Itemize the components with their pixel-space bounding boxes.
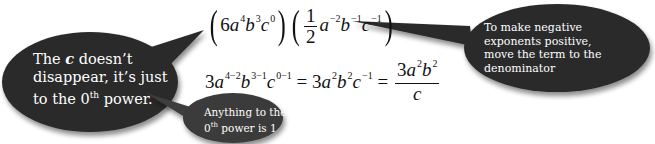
fraction-numerator: 1 xyxy=(304,6,318,27)
right-callout-line-3: move the term to the xyxy=(484,48,601,62)
equation-line-2: 3a4−2b3−1c0−1 = 3a2b2c−1 = 3a2b2c xyxy=(205,62,441,106)
b-exponent: 3 xyxy=(256,13,261,24)
variable-c: c xyxy=(65,50,74,67)
a-exponent: 4 xyxy=(240,13,245,24)
step2: 3a2b2c−1 xyxy=(312,71,373,92)
fraction-half: 12 xyxy=(304,6,318,47)
text: 0 xyxy=(204,122,211,134)
a-exponent: 2 xyxy=(417,58,422,69)
coefficient: 3 xyxy=(397,59,407,80)
right-callout-text: To make negative exponents positive, mov… xyxy=(484,21,601,75)
left-callout-line-1: The c doesn’t xyxy=(33,50,168,68)
right-callout-line-4: denominator xyxy=(484,62,601,76)
a-exponent: 4−2 xyxy=(225,70,241,81)
left-callout-line-3: to the 0th power. xyxy=(33,86,168,108)
superscript: th xyxy=(90,90,99,100)
result-numerator: 3a2b2 xyxy=(395,60,440,84)
fraction-denominator: 2 xyxy=(304,27,318,47)
right-callout-line-2: exponents positive, xyxy=(484,35,601,49)
left-callout-text: The c doesn’t disappear, it’s just to th… xyxy=(33,50,168,108)
left-paren: ( xyxy=(291,5,299,45)
c-exponent: 0−1 xyxy=(276,70,292,81)
superscript: th xyxy=(211,121,218,129)
c-exponent: 0 xyxy=(270,13,275,24)
result-denominator: c xyxy=(395,84,440,104)
step1: 3a4−2b3−1c0−1 xyxy=(205,71,292,92)
text: doesn’t xyxy=(74,51,132,67)
right-paren: ) xyxy=(278,5,286,45)
coefficient: 6 xyxy=(220,14,230,35)
b-exponent: 2 xyxy=(348,70,353,81)
bottom-callout-line-1: Anything to the xyxy=(204,106,287,119)
b-exponent: 3−1 xyxy=(251,70,267,81)
c-exponent: −1 xyxy=(362,70,373,81)
denominator-var: c xyxy=(413,83,421,104)
term2: a−2b−1c−1 xyxy=(319,14,381,35)
bottom-callout-text: Anything to the 0th power is 1 xyxy=(204,106,287,135)
a-exponent: −2 xyxy=(330,13,341,24)
term1: 6a4b3c0 xyxy=(220,14,275,35)
right-callout-line-1: To make negative xyxy=(484,21,601,35)
equals-sign: = xyxy=(297,71,308,92)
right-paren: ) xyxy=(384,5,392,45)
b-exponent: 2 xyxy=(432,58,437,69)
result-fraction: 3a2b2c xyxy=(395,60,440,104)
equals-sign: = xyxy=(377,71,388,92)
coefficient: 3 xyxy=(205,71,215,92)
text: The xyxy=(33,51,65,67)
text: power. xyxy=(99,91,153,107)
text: power is 1 xyxy=(218,122,277,134)
coefficient: 3 xyxy=(312,71,322,92)
left-callout-line-2: disappear, it’s just xyxy=(33,68,168,86)
c-exponent: −1 xyxy=(371,13,382,24)
a-exponent: 2 xyxy=(332,70,337,81)
bottom-callout-line-2: 0th power is 1 xyxy=(204,119,287,135)
left-paren: ( xyxy=(210,5,218,45)
text: to the 0 xyxy=(33,91,90,107)
equation-line-1: (6a4b3c0)(12a−2b−1c−1) xyxy=(207,6,395,47)
b-exponent: −1 xyxy=(351,13,362,24)
